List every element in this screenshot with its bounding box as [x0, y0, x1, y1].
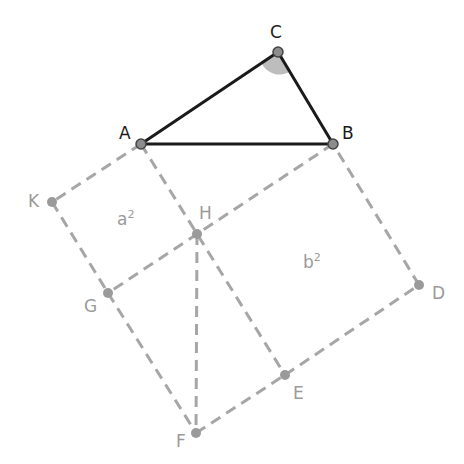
label-k: K [28, 191, 40, 211]
segment-ae [141, 144, 285, 375]
label-g: G [84, 296, 97, 316]
label-b: B [342, 123, 354, 143]
label-f: F [176, 431, 186, 451]
point-h[interactable] [192, 229, 202, 239]
point-c[interactable] [273, 47, 283, 57]
triangle-abc [141, 52, 333, 144]
segment-hf [196, 234, 197, 433]
label-c: C [270, 22, 282, 42]
point-f[interactable] [191, 428, 201, 438]
point-b[interactable] [328, 139, 338, 149]
point-e[interactable] [280, 370, 290, 380]
segment-fe [196, 375, 285, 433]
area-label-b2: b2 [303, 251, 321, 272]
vertices-light [47, 197, 424, 438]
point-k[interactable] [47, 197, 57, 207]
segment-kg [52, 202, 108, 293]
label-e: E [293, 383, 304, 403]
side-bc [278, 52, 333, 144]
segment-ed [285, 285, 419, 375]
point-g[interactable] [103, 288, 113, 298]
point-d[interactable] [414, 280, 424, 290]
vertices-dark [136, 47, 338, 149]
label-a: A [119, 123, 131, 143]
segment-gf [108, 293, 196, 433]
segment-db [333, 144, 419, 285]
area-label-a2: a2 [117, 208, 134, 229]
pythagoras-diagram: A B C K H G D E F a2 b2 [0, 0, 464, 464]
label-d: D [432, 283, 445, 303]
side-ac [141, 52, 278, 144]
label-h: H [199, 203, 212, 223]
point-a[interactable] [136, 139, 146, 149]
segment-ak [52, 144, 141, 202]
